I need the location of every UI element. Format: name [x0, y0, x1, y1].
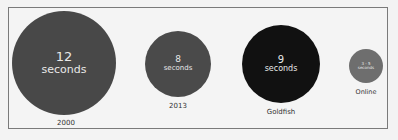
bubble-unit: seconds — [265, 65, 298, 74]
bubble-value: 12 — [56, 50, 73, 64]
bubble-goldfish: 9 seconds — [242, 25, 320, 103]
bubble-label-2000: 2000 — [57, 119, 75, 127]
bubble-label-goldfish: Goldfish — [267, 108, 296, 116]
bubble-unit: seconds — [358, 66, 374, 70]
bubble-label-2013: 2013 — [169, 102, 187, 110]
bubble-unit: seconds — [164, 65, 193, 73]
bubble-unit: seconds — [42, 64, 87, 76]
bubble-label-online: Online — [356, 88, 377, 96]
bubble-online: 3 - 5 seconds — [349, 49, 383, 83]
bubble-2000: 12 seconds — [12, 11, 116, 115]
bubble-2013: 8 seconds — [145, 31, 211, 97]
